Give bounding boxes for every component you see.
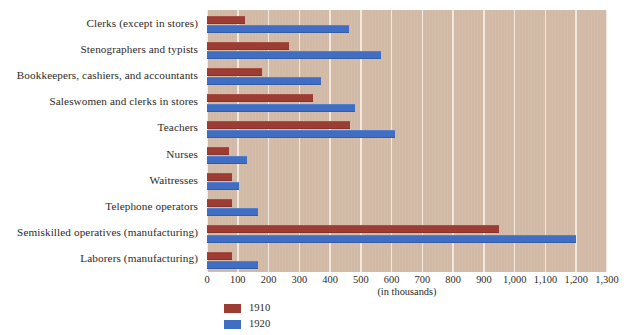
legend-item-1920[interactable]: 1920	[224, 317, 344, 331]
x-tick-1100: 1,100	[534, 273, 557, 286]
category-label-5: Nurses	[0, 148, 198, 160]
bar-1910-2	[207, 68, 262, 76]
bar-group	[207, 193, 607, 219]
x-tick-800: 800	[445, 273, 461, 286]
bar-1910-5	[207, 147, 229, 155]
category-label-2: Bookkeepers, cashiers, and accountants	[0, 69, 198, 81]
category-label-1: Stenographers and typists	[0, 43, 198, 55]
category-label-9: Laborers (manufacturing)	[0, 252, 198, 264]
x-tick-100: 100	[230, 273, 246, 286]
bar-1910-0	[207, 16, 245, 24]
category-label-4: Teachers	[0, 121, 198, 133]
x-tick-300: 300	[292, 273, 308, 286]
x-tick-900: 900	[476, 273, 492, 286]
bar-1920-6	[207, 182, 239, 190]
legend-label-1910: 1910	[249, 302, 270, 314]
bar-1920-2	[207, 77, 321, 85]
bar-1920-3	[207, 104, 355, 112]
bar-group	[207, 36, 607, 62]
bar-1910-7	[207, 199, 232, 207]
bar-1920-4	[207, 130, 395, 138]
x-tick-600: 600	[384, 273, 400, 286]
x-tick-500: 500	[353, 273, 369, 286]
bar-1920-5	[207, 156, 247, 164]
x-tick-200: 200	[261, 273, 277, 286]
category-label-7: Telephone operators	[0, 200, 198, 212]
legend-swatch-1910	[224, 304, 241, 313]
bar-1920-0	[207, 25, 349, 33]
bar-group	[207, 141, 607, 167]
x-tick-400: 400	[322, 273, 338, 286]
category-label-8: Semiskilled operatives (manufacturing)	[0, 226, 198, 238]
bar-1920-9	[207, 261, 258, 269]
category-axis-labels: Clerks (except in stores)Stenographers a…	[0, 10, 203, 272]
x-tick-700: 700	[415, 273, 431, 286]
x-tick-1000: 1,000	[503, 273, 526, 286]
bar-group	[207, 246, 607, 272]
x-axis-title: (in thousands)	[207, 286, 607, 297]
bar-group	[207, 167, 607, 193]
category-label-6: Waitresses	[0, 174, 198, 186]
legend-item-1910[interactable]: 1910	[224, 301, 344, 315]
bar-1920-8	[207, 235, 576, 243]
legend-label-1920: 1920	[249, 318, 270, 330]
x-tick-1200: 1,200	[565, 273, 588, 286]
bar-group	[207, 89, 607, 115]
chart-legend: 19101920	[224, 301, 344, 333]
x-tick-1300: 1,300	[595, 273, 618, 286]
bar-group	[207, 115, 607, 141]
bar-1910-3	[207, 94, 313, 102]
bar-group	[207, 62, 607, 88]
bar-1910-1	[207, 42, 289, 50]
bar-1910-6	[207, 173, 232, 181]
bar-1920-1	[207, 51, 381, 59]
legend-swatch-1920	[224, 320, 241, 329]
horizontal-bar-chart: Clerks (except in stores)Stenographers a…	[0, 0, 640, 335]
bar-group	[207, 10, 607, 36]
bar-1910-8	[207, 225, 499, 233]
bar-group	[207, 220, 607, 246]
category-label-3: Saleswomen and clerks in stores	[0, 95, 198, 107]
x-tick-0: 0	[204, 273, 209, 286]
plot-area	[207, 10, 607, 272]
bar-1910-4	[207, 121, 350, 129]
bar-1910-9	[207, 252, 232, 260]
bar-1920-7	[207, 208, 258, 216]
category-label-0: Clerks (except in stores)	[0, 17, 198, 29]
